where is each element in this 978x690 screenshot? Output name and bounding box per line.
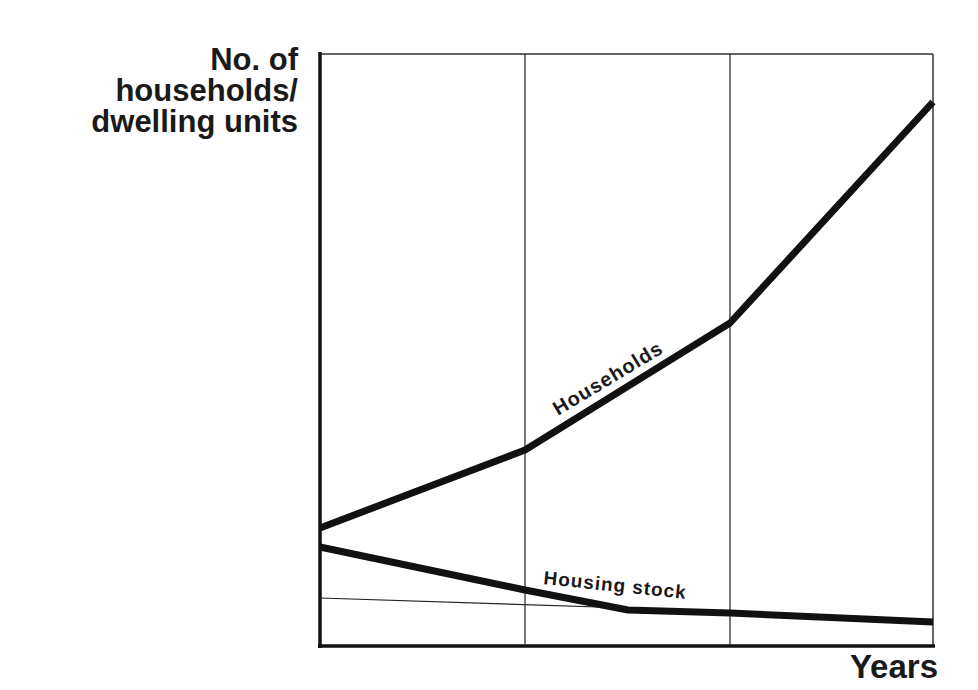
households-label: Households <box>549 336 667 419</box>
line-chart: Households Housing stock <box>0 0 978 690</box>
households-line <box>320 102 933 528</box>
x-axis-label: Years <box>850 648 938 686</box>
